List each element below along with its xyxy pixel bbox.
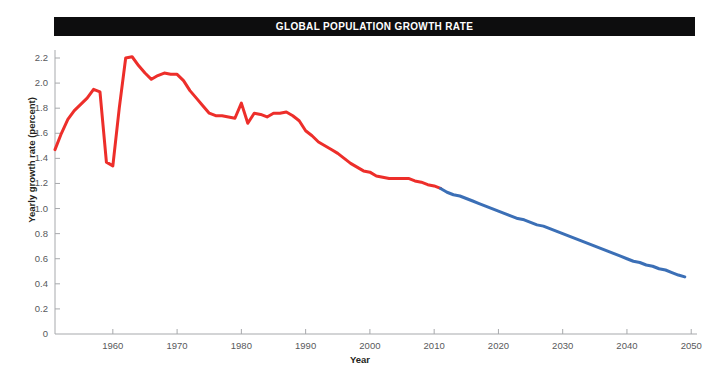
y-tick-label: 0 [14,328,48,339]
x-tick-label: 2030 [541,340,585,351]
y-tick-label: 0.2 [14,303,48,314]
y-tick-label: 1.0 [14,203,48,214]
x-tick-label: 2000 [348,340,392,351]
y-tick-label: 0.6 [14,253,48,264]
x-tick-label: 2050 [669,340,713,351]
series-line-projections [441,188,685,276]
y-tick-label: 1.8 [14,102,48,113]
x-tick-label: 1990 [284,340,328,351]
x-tick-label: 1970 [155,340,199,351]
y-tick-label: 0.8 [14,228,48,239]
chart-title: GLOBAL POPULATION GROWTH RATE [276,21,473,32]
y-tick-label: 0.4 [14,278,48,289]
chart-title-band: GLOBAL POPULATION GROWTH RATE [54,17,695,36]
chart-axes [55,50,697,334]
x-tick-label: 2020 [476,340,520,351]
y-tick-label: 2.2 [14,52,48,63]
chart-figure: GLOBAL POPULATION GROWTH RATE Yearly gro… [0,0,718,376]
x-tick-label: 2040 [605,340,649,351]
series-line-estimates [55,57,441,189]
chart-series-group [55,57,685,277]
y-tick-label: 1.4 [14,152,48,163]
x-tick-label: 2010 [412,340,456,351]
chart-plot-area [0,0,718,376]
y-tick-label: 1.6 [14,127,48,138]
x-axis-label: Year [300,354,420,365]
y-tick-label: 2.0 [14,77,48,88]
y-tick-label: 1.2 [14,177,48,188]
x-tick-label: 1960 [91,340,135,351]
x-tick-label: 1980 [219,340,263,351]
